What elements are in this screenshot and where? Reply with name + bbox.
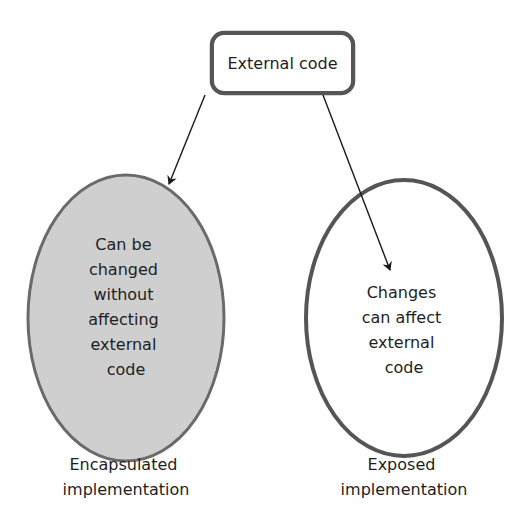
encapsulated-caption: Encapsulated implementation [63,455,190,499]
encapsulated-node: Can be changed without affecting externa… [28,175,224,461]
arrow-to-encapsulated [169,95,205,184]
exposed-node: Changes can affect external code [306,180,502,456]
diagram-canvas: External code Can be changed without aff… [0,0,527,521]
external-code-box: External code [212,33,353,93]
exposed-caption: Exposed implementation [341,455,468,499]
external-code-label: External code [227,54,337,73]
